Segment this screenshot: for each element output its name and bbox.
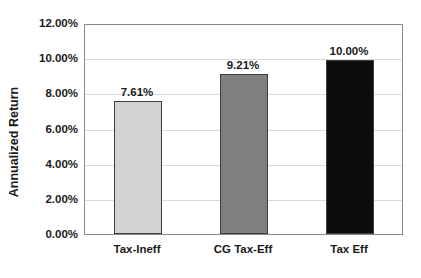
y-tick-label: 8.00% (14, 87, 78, 99)
x-tick-label-cg-tax-eff: CG Tax-Eff (214, 243, 273, 255)
bar-value-label-cg-tax-eff: 9.21% (227, 59, 260, 71)
x-tick-label-tax-eff: Tax Eff (330, 243, 368, 255)
bar-value-label-tax-eff: 10.00% (329, 45, 368, 57)
bar-value-label-tax-ineff: 7.61% (121, 86, 154, 98)
y-tick-label: 10.00% (14, 52, 78, 64)
bar-chart: Annualized Return 12.00% 10.00% 8.00% 6.… (0, 0, 421, 278)
bar-cg-tax-eff (220, 74, 268, 234)
y-tick-label: 4.00% (14, 158, 78, 170)
bar-tax-ineff (114, 101, 162, 234)
y-tick-label: 12.00% (14, 17, 78, 29)
y-tick-label: 0.00% (14, 228, 78, 240)
y-tick-label: 6.00% (14, 123, 78, 135)
bar-tax-eff (326, 60, 374, 234)
y-tick-label: 2.00% (14, 193, 78, 205)
x-tick-label-tax-ineff: Tax-Ineff (113, 243, 160, 255)
